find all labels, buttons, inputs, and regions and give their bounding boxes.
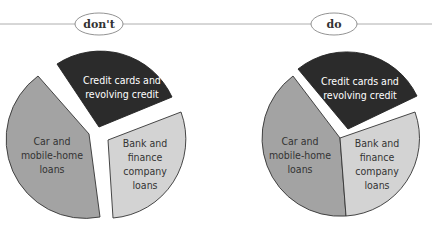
do-car-label-3: loans [287,163,312,175]
pie-comparison-figure: don't do Credit cards and revolving cred… [0,0,432,233]
dont-bank-label-2: finance [128,151,163,163]
dont-label: don't [83,18,115,31]
dont-pie: Credit cards and revolving credit Car an… [6,51,186,218]
dont-credit-label-1: Credit cards and [83,74,161,86]
do-label: do [326,18,341,31]
dont-bank-label-1: Bank and [123,137,168,149]
dont-car-label-1: Car and [33,135,70,147]
dont-car-label-2: mobile-home [21,149,83,161]
dont-bank-label-3: company [123,165,167,177]
do-bank-label-3: company [355,165,399,177]
do-bank-label-1: Bank and [355,137,400,149]
dont-car-label-3: loans [39,163,64,175]
dont-badge: don't [75,13,123,35]
do-bank-label-2: finance [360,151,395,163]
do-credit-label-2: revolving credit [323,89,397,101]
do-bank-label-4: loans [364,179,389,191]
do-pie: Credit cards and revolving credit Car an… [262,52,419,216]
do-car-label-1: Car and [281,135,318,147]
do-car-label-2: mobile-home [269,149,331,161]
do-credit-label-1: Credit cards and [321,75,399,87]
do-badge: do [311,13,357,35]
dont-credit-label-2: revolving credit [85,88,159,100]
dont-bank-label-4: loans [132,179,157,191]
